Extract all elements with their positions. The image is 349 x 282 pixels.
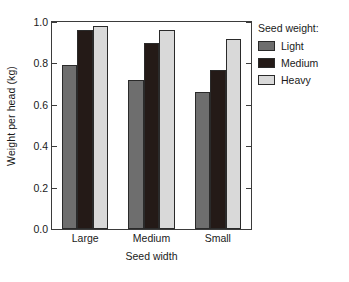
- x-axis-title: Seed width: [51, 250, 252, 262]
- legend-item: Light: [258, 38, 349, 53]
- bar: [195, 92, 211, 229]
- y-tick-mark-right: [246, 229, 251, 230]
- legend-item: Heavy: [258, 72, 349, 87]
- legend-swatch-icon: [258, 41, 275, 51]
- y-tick-label: 1.0: [18, 16, 48, 28]
- x-tick-label: Large: [72, 232, 99, 244]
- legend-label: Light: [281, 40, 304, 52]
- y-tick-mark: [52, 22, 57, 23]
- y-tick-mark-right: [246, 22, 251, 23]
- legend-label: Heavy: [281, 74, 311, 86]
- legend-label: Medium: [281, 57, 318, 69]
- bar: [226, 39, 242, 229]
- bar: [159, 30, 175, 229]
- bar: [128, 80, 144, 229]
- x-axis-tick-labels: LargeMediumSmall: [51, 232, 252, 250]
- y-axis-title-text: Weight per head (kg): [5, 66, 17, 166]
- legend-title: Seed weight:: [258, 22, 349, 34]
- bar: [62, 65, 78, 229]
- plot-inner: [52, 22, 251, 229]
- y-tick-label: 0.6: [18, 99, 48, 111]
- legend-swatch-icon: [258, 75, 275, 85]
- legend-item: Medium: [258, 55, 349, 70]
- y-tick-label: 0.0: [18, 223, 48, 235]
- legend-swatch-icon: [258, 58, 275, 68]
- y-tick-mark: [52, 63, 57, 64]
- y-tick-mark-right: [246, 63, 251, 64]
- y-tick-label: 0.4: [18, 140, 48, 152]
- bar: [93, 26, 109, 229]
- legend-items: LightMediumHeavy: [258, 38, 349, 87]
- legend: Seed weight: LightMediumHeavy: [258, 22, 349, 89]
- x-tick-label: Small: [205, 232, 231, 244]
- y-tick-mark: [52, 229, 57, 230]
- y-axis-tick-labels: 0.00.20.40.60.81.0: [18, 0, 48, 282]
- y-tick-mark-right: [246, 105, 251, 106]
- y-tick-mark: [52, 188, 57, 189]
- y-tick-label: 0.2: [18, 182, 48, 194]
- bar: [210, 70, 226, 229]
- plot-area: [51, 21, 252, 230]
- y-tick-mark-right: [246, 188, 251, 189]
- bar: [77, 30, 93, 229]
- bar: [144, 43, 160, 229]
- y-tick-mark-right: [246, 146, 251, 147]
- y-tick-mark: [52, 105, 57, 106]
- y-tick-label: 0.8: [18, 57, 48, 69]
- y-tick-mark: [52, 146, 57, 147]
- x-tick-label: Medium: [133, 232, 170, 244]
- bar-chart-figure: Weight per head (kg) 0.00.20.40.60.81.0 …: [0, 0, 349, 282]
